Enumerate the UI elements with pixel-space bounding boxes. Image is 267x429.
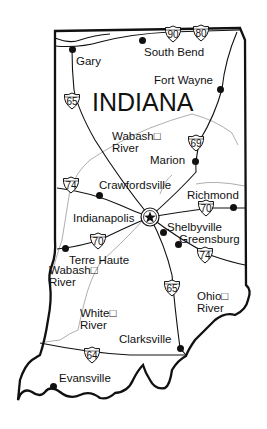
river-label-wabash-river: Wabash□River bbox=[49, 264, 98, 288]
river-label-white-river: White□River bbox=[80, 307, 116, 331]
interstate-number: 64 bbox=[86, 350, 97, 361]
city-dot-icon bbox=[139, 37, 146, 44]
city-dot-icon bbox=[62, 245, 69, 252]
interstate-number: 90 bbox=[167, 29, 178, 40]
interstate-shield-icon-80: 80 bbox=[192, 24, 210, 42]
city-label-greensburg: Greensburg bbox=[179, 233, 240, 245]
interstate-number: 69 bbox=[190, 138, 201, 149]
interstate-number: 70 bbox=[92, 236, 103, 247]
interstate-shield-icon-90: 90 bbox=[164, 25, 182, 43]
river-label-line1: White□ bbox=[80, 307, 116, 319]
city-dot-icon bbox=[177, 345, 184, 352]
interstate-shield-icon-65: 65 bbox=[63, 92, 81, 110]
river-label-line2: River bbox=[197, 302, 228, 314]
river-label-line2: River bbox=[49, 276, 98, 288]
city-label-clarksville: Clarksville bbox=[119, 333, 171, 345]
interstate-shield-icon-64: 64 bbox=[83, 346, 101, 364]
interstate-number: 70 bbox=[200, 203, 211, 214]
map-title: INDIANA bbox=[92, 88, 193, 117]
interstate-shield-icon-74: 74 bbox=[62, 176, 80, 194]
city-label-gary: Gary bbox=[76, 55, 101, 67]
interstate-shield-icon-70: 70 bbox=[89, 232, 107, 250]
interstate-shield-icon-65: 65 bbox=[163, 279, 181, 297]
interstate-number: 65 bbox=[166, 283, 177, 294]
city-dot-icon bbox=[69, 46, 76, 53]
city-label-shelbyville: Shelbyville bbox=[167, 221, 222, 233]
interstate-number: 80 bbox=[195, 28, 206, 39]
city-dot-icon bbox=[192, 158, 199, 165]
city-label-crawfordsville: Crawfordsville bbox=[99, 179, 171, 191]
river-label-line1: Wabash□ bbox=[112, 130, 161, 142]
interstate-shield-icon-70: 70 bbox=[197, 199, 215, 217]
city-label-south-bend: South Bend bbox=[144, 46, 204, 58]
city-dot-icon bbox=[160, 229, 167, 236]
interstate-shield-icon-69: 69 bbox=[187, 134, 205, 152]
interstate-number: 74 bbox=[65, 180, 76, 191]
city-label-fort-wayne: Fort Wayne bbox=[154, 74, 213, 86]
river-label-line2: River bbox=[112, 142, 161, 154]
city-dot-icon bbox=[96, 192, 103, 199]
city-dot-icon bbox=[50, 383, 57, 390]
river-label-line1: Ohio□ bbox=[197, 290, 228, 302]
river-label-line2: River bbox=[80, 319, 116, 331]
river-label-ohio-river: Ohio□River bbox=[197, 290, 228, 314]
city-dot-icon bbox=[230, 204, 237, 211]
city-label-marion: Marion bbox=[150, 154, 185, 166]
city-label-evansville: Evansville bbox=[59, 372, 111, 384]
city-label-indianapolis: Indianapolis bbox=[73, 212, 134, 224]
city-dot-icon bbox=[217, 86, 224, 93]
interstate-shield-icon-74: 74 bbox=[196, 246, 214, 264]
interstate-number: 74 bbox=[199, 250, 210, 261]
interstate-number: 65 bbox=[66, 96, 77, 107]
river-label-wabash-river: Wabash□River bbox=[112, 130, 161, 154]
capital-star-in-circle-icon bbox=[141, 208, 159, 226]
river-label-line1: Wabash□ bbox=[49, 264, 98, 276]
